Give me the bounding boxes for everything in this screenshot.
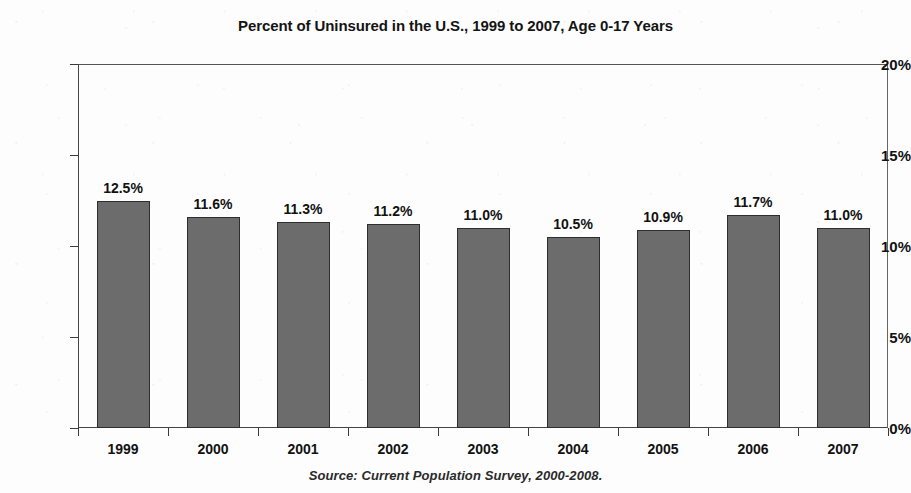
- bars-layer: 12.5%11.6%11.3%11.2%11.0%10.5%10.9%11.7%…: [78, 64, 888, 428]
- bar-value-label: 12.5%: [78, 180, 168, 196]
- bar-value-label: 10.9%: [618, 209, 708, 225]
- bar-value-label: 11.2%: [348, 203, 438, 219]
- x-axis-tick-mark: [258, 428, 259, 436]
- y-axis-tick-mark: [70, 428, 78, 429]
- x-axis-tick-label: 2001: [258, 441, 348, 457]
- bar-value-label: 11.7%: [708, 194, 798, 210]
- bar-group: 11.2%: [348, 64, 438, 428]
- x-axis-tick-mark: [618, 428, 619, 436]
- x-axis-tick-label: 2003: [438, 441, 528, 457]
- bar-group: 11.7%: [708, 64, 798, 428]
- bar[interactable]: [457, 228, 510, 428]
- bar-value-label: 10.5%: [528, 216, 618, 232]
- x-axis-tick-label: 2006: [708, 441, 798, 457]
- bar-group: 11.6%: [168, 64, 258, 428]
- bar[interactable]: [277, 222, 330, 428]
- bar-group: 10.9%: [618, 64, 708, 428]
- x-axis-tick-mark: [348, 428, 349, 436]
- bar-value-label: 11.0%: [798, 207, 888, 223]
- bar-group: 10.5%: [528, 64, 618, 428]
- x-axis-tick-mark: [708, 428, 709, 436]
- bar[interactable]: [727, 215, 780, 428]
- x-axis-tick-mark: [798, 428, 799, 436]
- x-axis-tick-label: 2007: [798, 441, 888, 457]
- bar-value-label: 11.3%: [258, 201, 348, 217]
- x-axis-tick-mark: [438, 428, 439, 436]
- bar-value-label: 11.0%: [438, 207, 528, 223]
- chart-title: Percent of Uninsured in the U.S., 1999 t…: [0, 17, 911, 34]
- bar-value-label: 11.6%: [168, 196, 258, 212]
- x-axis-tick-label: 2005: [618, 441, 708, 457]
- bar-group: 12.5%: [78, 64, 168, 428]
- bar[interactable]: [637, 230, 690, 428]
- uninsured-bar-chart-figure: Percent of Uninsured in the U.S., 1999 t…: [0, 0, 911, 493]
- source-note: Source: Current Population Survey, 2000-…: [0, 468, 911, 483]
- x-axis-tick-label: 2000: [168, 441, 258, 457]
- y-axis-tick-mark: [70, 246, 78, 247]
- y-axis-tick-mark: [70, 64, 78, 65]
- bar[interactable]: [97, 201, 150, 429]
- bar[interactable]: [367, 224, 420, 428]
- bar[interactable]: [547, 237, 600, 428]
- x-axis-tick-label: 2004: [528, 441, 618, 457]
- x-axis-tick-mark: [528, 428, 529, 436]
- bar-group: 11.0%: [798, 64, 888, 428]
- y-axis-tick-mark: [70, 337, 78, 338]
- bar[interactable]: [817, 228, 870, 428]
- x-axis-tick-label: 1999: [78, 441, 168, 457]
- bar[interactable]: [187, 217, 240, 428]
- y-axis-tick-mark: [70, 155, 78, 156]
- bar-group: 11.0%: [438, 64, 528, 428]
- bar-group: 11.3%: [258, 64, 348, 428]
- x-axis-tick-mark: [168, 428, 169, 436]
- x-axis-tick-mark: [888, 428, 889, 436]
- x-axis-tick-label: 2002: [348, 441, 438, 457]
- x-axis-tick-mark: [78, 428, 79, 436]
